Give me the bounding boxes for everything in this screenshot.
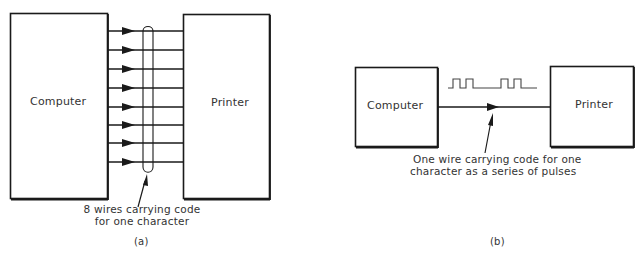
computer-label-b: Computer (367, 99, 423, 112)
printer-label-b: Printer (575, 98, 613, 111)
caption-b: One wire carrying code for one character… (410, 154, 580, 177)
caption-a-line1: 8 wires carrying code (82, 204, 202, 216)
computer-label-a: Computer (30, 95, 86, 108)
panel-label-a: (a) (134, 236, 149, 247)
panel-a (11, 14, 271, 208)
panel-label-b: (b) (490, 236, 505, 247)
caption-a: 8 wires carrying code for one character (82, 204, 202, 227)
caption-b-line2: character as a series of pulses (410, 166, 580, 178)
pointer-arrow-b (485, 113, 493, 153)
wire-arrowheads (122, 27, 135, 166)
wire-bundle-loop (143, 27, 153, 173)
caption-b-line1: One wire carrying code for one (410, 154, 580, 166)
parallel-wires (108, 31, 183, 162)
printer-label-a: Printer (211, 96, 249, 109)
caption-a-line2: for one character (82, 216, 202, 228)
serial-arrowhead (487, 103, 499, 111)
pulse-waveform (448, 79, 537, 88)
